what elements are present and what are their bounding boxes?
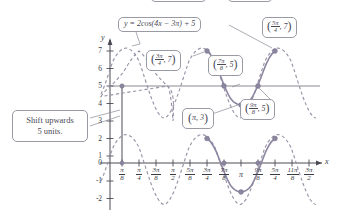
paren-close: ) [172, 52, 176, 66]
x-tick-label-5pi-8: 5π8 [181, 167, 199, 182]
paren-close: ) [266, 101, 270, 115]
callout-point-pi-3: (π, 3) [182, 108, 214, 129]
x-tick-label-3pi-8: 3π8 [147, 167, 165, 182]
y-tick-label-neg1: -1 [92, 176, 106, 185]
x-tick-label-3pi-2: 3π2 [300, 167, 318, 182]
marker-pi8-0 [120, 161, 124, 165]
tick-text: π [239, 170, 243, 179]
coord-y-value: 7 [284, 22, 288, 31]
x-tick-label-3pi-4: 3π4 [198, 167, 216, 182]
y-tick-label-neg2: -2 [92, 194, 106, 203]
fraction-denominator: 4 [155, 60, 164, 67]
fraction-5pi-4: 5π4 [271, 20, 280, 34]
y-tick-label-7: 7 [94, 46, 106, 55]
fraction-denominator: 8 [219, 175, 228, 182]
y-tick-label-6: 6 [94, 64, 106, 73]
marker-pi-neg2 [239, 190, 244, 195]
marker-7pi8-5 [222, 84, 227, 89]
fraction-denominator: 4 [202, 175, 211, 182]
fraction-denominator: 8 [287, 175, 299, 182]
callout-point-7pi8-5: (7π8, 5) [208, 55, 243, 76]
x-tick-label-pi-8: π8 [113, 167, 131, 182]
equation-callout: y = 2cos(4x − 3π) + 5 [118, 17, 201, 32]
paren-close: ) [204, 111, 208, 125]
figure-canvas: y = 2cos(4x − 3π) + 5 (3π4, 7) (5π4, 7) … [0, 0, 337, 222]
marker-3pi4-2 [205, 136, 210, 141]
y-tick-label-3: 3 [94, 116, 106, 125]
fraction-9pi-8: 9π8 [249, 102, 258, 116]
fraction-denominator: 4 [271, 27, 280, 34]
callout-shift-note: Shift upwards 5 units. [12, 110, 88, 142]
fraction-denominator: 8 [253, 175, 262, 182]
y-tick-label-2: 2 [94, 134, 106, 143]
x-axis-arrowhead [316, 161, 322, 166]
paren-open: ( [188, 111, 192, 125]
paren-close: ) [234, 57, 238, 71]
fraction-denominator: 8 [185, 175, 194, 182]
x-tick-label-7pi-8: 7π8 [215, 167, 233, 182]
marker-9pi8-5 [256, 84, 261, 89]
fraction-7pi-8: 7π8 [217, 58, 226, 72]
coord-y-value: 7 [168, 55, 172, 64]
fraction-3pi-4: 3π4 [155, 53, 164, 67]
fraction-denominator: 4 [270, 175, 279, 182]
shift-note-line-2: 5 units. [19, 126, 81, 137]
fraction-denominator: 8 [151, 175, 160, 182]
x-axis-label: x [325, 157, 329, 166]
coord-y-value: 5 [230, 60, 234, 69]
callout-point-5pi4-7: (5π4, 7) [262, 17, 297, 38]
equation-text: y = 2cos(4x − 3π) + 5 [124, 19, 195, 28]
marker-9pi8-0 [256, 161, 260, 165]
fraction-denominator: 2 [170, 175, 176, 182]
shift-note-line-1: Shift upwards [19, 115, 81, 126]
y-tick-label-0: 0 [94, 158, 106, 167]
y-axis-arrowhead [108, 38, 113, 45]
fraction-denominator: 4 [136, 175, 142, 182]
x-tick-label-9pi-8: 9π8 [249, 167, 267, 182]
paren-close: ) [288, 19, 292, 33]
x-tick-label-pi: π [232, 170, 250, 179]
fraction-denominator: 8 [217, 65, 226, 72]
callout-point-9pi8-5: (9π8, 5) [240, 99, 275, 120]
marker-5pi4-2 [273, 136, 278, 141]
marker-3pi4-7 [205, 49, 210, 54]
coord-y-value: 5 [262, 104, 266, 113]
y-axis-label: y [101, 33, 105, 42]
y-tick-label-5: 5 [94, 81, 106, 90]
x-tick-label-pi-4: π4 [130, 167, 148, 182]
x-tick-label-pi-2: π2 [164, 167, 182, 182]
marker-pi8-5 [120, 84, 124, 88]
marker-5pi4-7 [273, 49, 278, 54]
fraction-denominator: 2 [304, 175, 313, 182]
y-tick-label-4: 4 [94, 99, 106, 108]
fraction-denominator: 8 [249, 109, 258, 116]
fraction-denominator: 8 [119, 175, 125, 182]
marker-7pi8-0 [222, 161, 226, 165]
callout-point-3pi4-7: (3π4, 7) [146, 50, 181, 71]
